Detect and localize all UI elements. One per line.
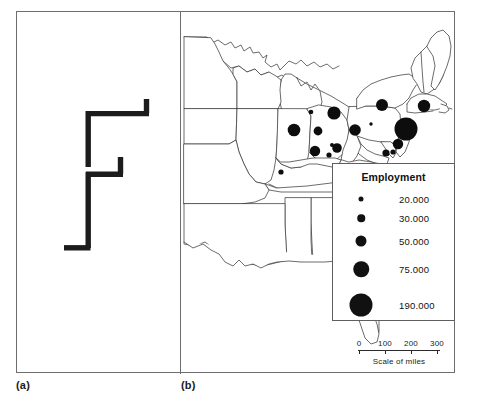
scale-tick-0: 0 [357, 339, 362, 348]
city-circle-philadelphia [393, 139, 403, 149]
city-circle-cleveland [349, 124, 361, 136]
scale-tick-300: 300 [430, 339, 444, 348]
map-scale-bar: 0 100 200 300 Scale of miles [356, 339, 442, 366]
legend-row: 75.000 [333, 253, 454, 285]
scale-rule-line [358, 350, 440, 351]
city-circle-cincinnati [326, 152, 331, 157]
legend-row: 30.000 [333, 208, 454, 228]
legend-row: 50.000 [333, 228, 454, 253]
legend-row: 190.000 [333, 285, 454, 327]
city-circle-harrisburg [369, 122, 372, 125]
zigzag-step-line-icon [16, 11, 180, 373]
legend-dot-30000 [357, 214, 365, 222]
scale-rule-tick-2 [411, 350, 412, 354]
city-circle-wilmington [390, 149, 395, 154]
scale-tick-100: 100 [378, 339, 392, 348]
scale-rule-tick-1 [385, 350, 386, 354]
scale-rule [356, 350, 442, 355]
legend-entries: 20.000 30.000 50.000 75.000 190.000 [333, 189, 454, 327]
city-circle-detroit [327, 106, 340, 119]
scale-caption: Scale of miles [356, 357, 442, 366]
city-circle-st-louis [278, 169, 283, 174]
legend-value-50000: 50.000 [399, 236, 429, 247]
city-circle-buffalo [376, 99, 388, 111]
legend-value-75000: 75.000 [399, 264, 429, 275]
scale-rule-tick-3 [437, 350, 438, 354]
city-circle-fort-wayne [314, 127, 323, 136]
city-circle-indianapolis [310, 146, 320, 156]
city-circle-baltimore [382, 149, 389, 156]
panel-b-caption: (b) [181, 379, 196, 391]
legend-value-30000: 30.000 [399, 213, 429, 224]
legend-dot-190000 [350, 294, 373, 317]
legend-value-20000: 20.000 [399, 194, 429, 205]
legend-value-190000: 190.000 [399, 300, 435, 311]
scale-tick-labels: 0 100 200 300 [356, 339, 442, 350]
city-circle-boston [418, 100, 430, 112]
panel-a-caption: (a) [16, 379, 30, 391]
scale-tick-200: 200 [404, 339, 418, 348]
panel-a-diagram [16, 11, 180, 373]
city-circle-columbus [330, 143, 334, 147]
map-legend: Employment 20.000 30.000 50.000 75.000 1… [332, 163, 455, 321]
city-circle-milwaukee [309, 110, 314, 115]
city-circle-chicago [288, 124, 301, 137]
legend-title: Employment [333, 171, 454, 183]
city-circle-new-york [395, 118, 418, 141]
legend-dot-50000 [356, 236, 367, 247]
scale-rule-tick-0 [359, 350, 360, 354]
legend-dot-75000 [353, 261, 369, 277]
figure-root: (a) [0, 0, 477, 404]
legend-dot-20000 [359, 197, 364, 202]
legend-row: 20.000 [333, 189, 454, 208]
